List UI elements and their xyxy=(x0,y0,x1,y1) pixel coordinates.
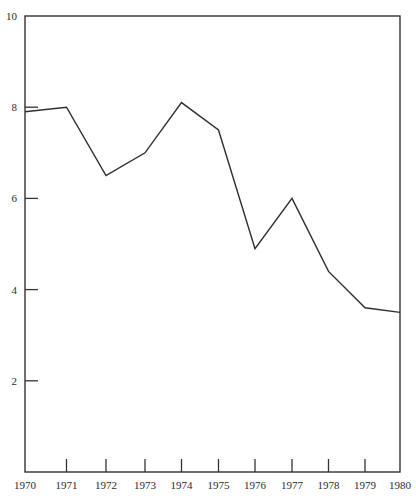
plot-frame xyxy=(25,16,400,472)
x-tick-label: 1980 xyxy=(389,479,412,491)
x-tick-label: 1979 xyxy=(354,479,377,491)
y-tick-label: 8 xyxy=(12,101,18,113)
x-tick-label: 1976 xyxy=(244,479,267,491)
x-axis: 1970197119721973197419751976197719781979… xyxy=(14,459,412,491)
x-tick-label: 1974 xyxy=(171,479,194,491)
x-tick-label: 1975 xyxy=(208,479,231,491)
data-line xyxy=(25,103,400,313)
x-tick-label: 1973 xyxy=(134,479,157,491)
y-tick-label: 6 xyxy=(12,192,18,204)
y-axis: 246810 xyxy=(6,10,38,387)
x-tick-label: 1972 xyxy=(95,479,117,491)
x-tick-label: 1971 xyxy=(56,479,78,491)
chart-canvas: 246810 197019711972197319741975197619771… xyxy=(0,0,416,500)
line-chart: 246810 197019711972197319741975197619771… xyxy=(0,0,416,500)
y-tick-label: 10 xyxy=(6,10,18,22)
x-tick-label: 1978 xyxy=(318,479,341,491)
y-tick-label: 4 xyxy=(12,284,18,296)
y-tick-label: 2 xyxy=(12,375,18,387)
x-tick-label: 1977 xyxy=(281,479,304,491)
x-tick-label: 1970 xyxy=(14,479,37,491)
